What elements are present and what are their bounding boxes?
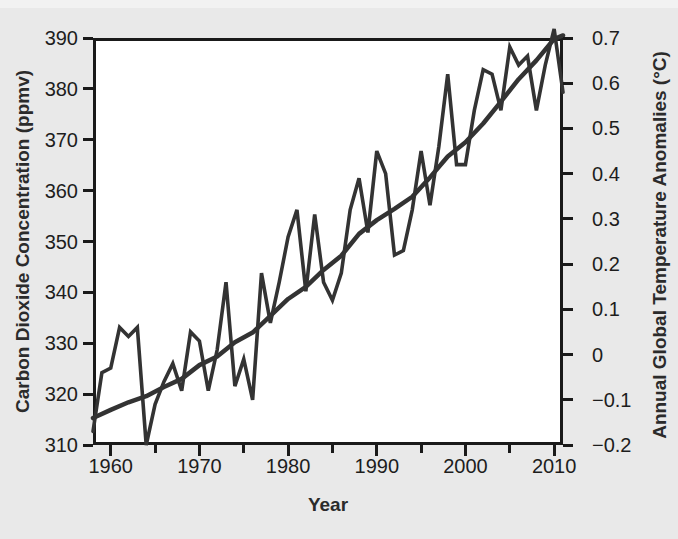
- x-axis-tick-1990: 1990: [355, 455, 400, 478]
- x-axis-tick-2010: 2010: [532, 455, 577, 478]
- x-axis-title: Year: [93, 494, 563, 516]
- y-axis-left-title: Carbon Dioxide Concentration (ppmv): [8, 38, 38, 445]
- x-axis-tick-1980: 1980: [266, 455, 311, 478]
- y-axis-right-title: Annual Global Temperature Anomalies (°C): [645, 30, 675, 460]
- x-axis-tick-1960: 1960: [88, 455, 133, 478]
- x-axis-tick-1970: 1970: [177, 455, 222, 478]
- figure-container: 310320330340350360370380390 −0.2−0.100.1…: [0, 0, 678, 539]
- x-axis-tick-2000: 2000: [443, 455, 488, 478]
- x-axis-tick-labels: 196019701980199020002010: [0, 0, 678, 539]
